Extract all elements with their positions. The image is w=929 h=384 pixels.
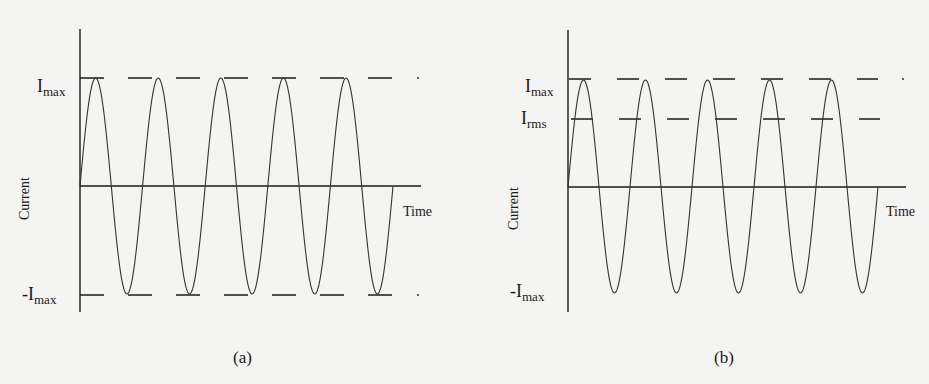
y-axis-label: Current: [17, 177, 32, 220]
y-axis-label: Current: [506, 187, 521, 230]
ac-current-diagram: Imax -Imax Current Time (a) Imax Irms -I…: [0, 0, 929, 384]
panel-a: Imax -Imax Current Time (a): [17, 29, 432, 367]
irms-label: Irms: [521, 108, 547, 131]
imax-dot: [417, 77, 419, 79]
neg-imax-label: -Imax: [22, 284, 57, 307]
panel-b: Imax Irms -Imax Current Time (b): [506, 30, 915, 367]
imax-label: Imax: [37, 76, 66, 99]
imax-dot: [902, 78, 904, 80]
neg-imax-dot: [417, 294, 419, 296]
x-axis-label: Time: [403, 204, 432, 219]
neg-imax-label: -Imax: [510, 281, 545, 304]
caption-b: (b): [714, 348, 734, 367]
imax-label: Imax: [525, 76, 554, 99]
caption-a: (a): [233, 348, 252, 367]
x-axis-label: Time: [886, 204, 915, 219]
